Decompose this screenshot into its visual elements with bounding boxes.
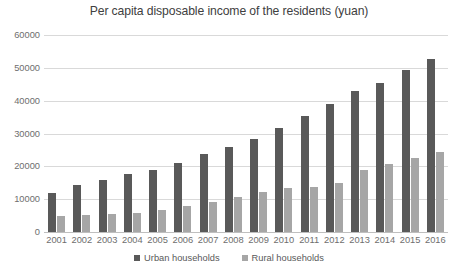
y-tick-label: 20000	[14, 161, 40, 171]
bar[interactable]	[133, 213, 141, 232]
bar-group	[297, 35, 322, 232]
y-tick-label: 0	[35, 227, 40, 237]
chart-title: Per capita disposable income of the resi…	[0, 4, 458, 18]
bar[interactable]	[57, 216, 65, 232]
bar[interactable]	[427, 59, 435, 232]
bar[interactable]	[310, 187, 318, 232]
bar[interactable]	[250, 139, 258, 232]
bar[interactable]	[174, 163, 182, 232]
y-axis: 6000050000400003000020000100000	[0, 35, 40, 232]
bar-group	[322, 35, 347, 232]
bar[interactable]	[411, 158, 419, 232]
x-tick-label: 2005	[145, 233, 170, 249]
bar[interactable]	[402, 70, 410, 232]
bar[interactable]	[183, 206, 191, 232]
bar[interactable]	[385, 164, 393, 232]
x-tick-label: 2013	[347, 233, 372, 249]
bar[interactable]	[360, 170, 368, 232]
plot-area	[44, 35, 448, 232]
bar-group	[44, 35, 69, 232]
x-tick-label: 2002	[69, 233, 94, 249]
bar-group	[95, 35, 120, 232]
y-tick-label: 50000	[14, 63, 40, 73]
bar-group	[196, 35, 221, 232]
y-tick-label: 30000	[14, 129, 40, 139]
bar[interactable]	[376, 83, 384, 232]
bar-group	[347, 35, 372, 232]
x-tick-label: 2006	[170, 233, 195, 249]
x-tick-label: 2010	[271, 233, 296, 249]
legend-swatch-icon	[242, 255, 248, 261]
bar-group	[372, 35, 397, 232]
bar[interactable]	[99, 180, 107, 232]
bar[interactable]	[200, 154, 208, 232]
x-tick-label: 2008	[221, 233, 246, 249]
legend-label: Urban households	[144, 253, 219, 263]
bar[interactable]	[301, 116, 309, 232]
x-tick-label: 2009	[246, 233, 271, 249]
bar[interactable]	[234, 197, 242, 232]
bar[interactable]	[209, 202, 217, 232]
x-tick-label: 2003	[95, 233, 120, 249]
bar[interactable]	[48, 193, 56, 232]
bar[interactable]	[259, 192, 267, 232]
y-tick-label: 40000	[14, 96, 40, 106]
bar[interactable]	[124, 174, 132, 232]
bar-group	[145, 35, 170, 232]
chart-legend: Urban householdsRural households	[0, 253, 458, 263]
bar[interactable]	[351, 91, 359, 232]
x-axis: 2001200220032004200520062007200820092010…	[44, 233, 448, 249]
x-tick-label: 2011	[297, 233, 322, 249]
x-tick-label: 2014	[372, 233, 397, 249]
y-tick-label: 60000	[14, 30, 40, 40]
bar-group	[120, 35, 145, 232]
legend-item[interactable]: Rural households	[242, 253, 324, 263]
bar[interactable]	[436, 152, 444, 232]
y-tick-label: 10000	[14, 194, 40, 204]
bar[interactable]	[158, 210, 166, 232]
legend-swatch-icon	[134, 255, 140, 261]
bar[interactable]	[275, 128, 283, 232]
legend-item[interactable]: Urban households	[134, 253, 219, 263]
x-tick-label: 2015	[398, 233, 423, 249]
bar[interactable]	[225, 147, 233, 232]
legend-label: Rural households	[252, 253, 324, 263]
bar-group	[423, 35, 448, 232]
bar-group	[170, 35, 195, 232]
x-tick-label: 2004	[120, 233, 145, 249]
bar-group	[271, 35, 296, 232]
bar[interactable]	[73, 185, 81, 232]
bar[interactable]	[149, 170, 157, 232]
bar[interactable]	[82, 215, 90, 232]
bar-group	[398, 35, 423, 232]
x-tick-label: 2016	[423, 233, 448, 249]
bar[interactable]	[326, 104, 334, 232]
bar-group	[69, 35, 94, 232]
x-tick-label: 2001	[44, 233, 69, 249]
bar[interactable]	[335, 183, 343, 232]
bar-series-layer	[44, 35, 448, 232]
x-tick-label: 2007	[196, 233, 221, 249]
x-tick-label: 2012	[322, 233, 347, 249]
bar-group	[221, 35, 246, 232]
bar-group	[246, 35, 271, 232]
chart-container: Per capita disposable income of the resi…	[0, 0, 458, 275]
bar[interactable]	[108, 214, 116, 232]
bar[interactable]	[284, 188, 292, 232]
